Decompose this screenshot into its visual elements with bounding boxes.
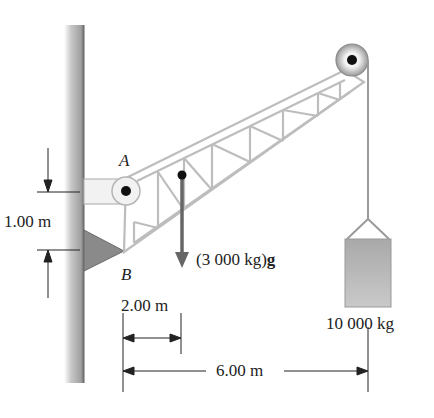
label-1m: 1.00 m [4,212,51,232]
wall [64,25,84,383]
pulley [336,44,368,76]
pin-a [112,177,140,205]
label-point-a: A [119,151,129,171]
boom-truss [124,70,364,252]
boom-weight-mass: (3 000 kg) [196,250,267,269]
support-bracket-b [84,230,124,271]
crane-diagram [0,0,434,418]
label-6m: 6.00 m [216,361,263,381]
label-2m: 2.00 m [121,296,168,316]
load-box [345,219,391,307]
label-load-mass: 10 000 kg [326,314,394,334]
gravity-vector: g [267,250,276,269]
label-point-b: B [121,265,131,285]
label-boom-weight: (3 000 kg)g [196,250,275,270]
